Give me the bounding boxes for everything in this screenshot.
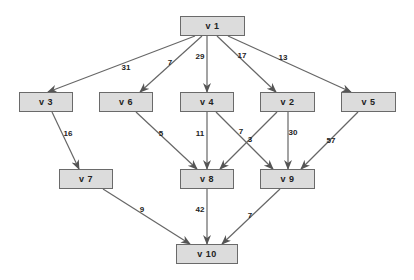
node-v9: v 9 xyxy=(260,169,315,189)
edge-weight-v1-v4: 29 xyxy=(196,52,205,61)
node-v10: v 10 xyxy=(176,244,238,264)
edge-weight-v1-v2: 17 xyxy=(238,51,247,60)
node-label: v 3 xyxy=(39,97,53,107)
edge-weight-v9-v10: 7 xyxy=(248,211,252,220)
edge-weight-v5-v9: 57 xyxy=(327,136,336,145)
node-label: v 6 xyxy=(119,97,133,107)
node-v5: v 5 xyxy=(341,92,396,112)
edge-v6-v8 xyxy=(136,112,197,169)
node-label: v 7 xyxy=(79,174,93,184)
edge-weight-v2-v8: 3 xyxy=(248,135,252,144)
edge-v3-v7 xyxy=(52,112,79,169)
node-v2: v 2 xyxy=(260,92,315,112)
node-label: v 4 xyxy=(200,97,214,107)
weighted-dag-diagram: v 1v 3v 6v 4v 2v 5v 7v 8v 9v 10 31729171… xyxy=(0,0,414,280)
edge-weight-v6-v8: 5 xyxy=(159,129,163,138)
edge-weight-v4-v8: 11 xyxy=(196,129,204,138)
node-v1: v 1 xyxy=(180,16,245,36)
edge-v4-v9 xyxy=(216,112,273,169)
edges-layer xyxy=(0,0,414,280)
node-v7: v 7 xyxy=(59,169,113,189)
node-label: v 5 xyxy=(361,97,375,107)
node-v3: v 3 xyxy=(19,92,73,112)
edge-weight-v1-v6: 7 xyxy=(168,58,172,67)
edge-v7-v10 xyxy=(103,189,190,244)
edge-weight-v3-v7: 16 xyxy=(64,129,73,138)
node-v8: v 8 xyxy=(180,169,234,189)
edge-weight-v7-v10: 9 xyxy=(140,205,144,214)
edge-weight-v1-v3: 31 xyxy=(122,63,131,72)
node-v4: v 4 xyxy=(180,92,234,112)
edge-weight-v8-v10: 42 xyxy=(196,205,205,214)
edge-weight-v1-v5: 13 xyxy=(279,53,288,62)
edge-weight-v4-v9: 7 xyxy=(239,127,243,136)
node-label: v 10 xyxy=(197,249,217,259)
edge-weight-v2-v9: 30 xyxy=(289,128,298,137)
node-label: v 2 xyxy=(280,97,294,107)
node-label: v 8 xyxy=(200,174,214,184)
node-label: v 1 xyxy=(205,21,219,31)
node-label: v 9 xyxy=(280,174,294,184)
node-v6: v 6 xyxy=(99,92,153,112)
